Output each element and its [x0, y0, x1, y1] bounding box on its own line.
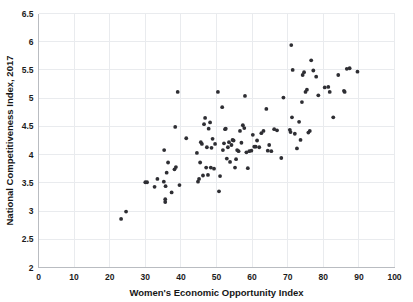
- data-point: [234, 157, 238, 161]
- data-point: [282, 96, 286, 100]
- data-point: [295, 147, 299, 151]
- data-point: [164, 184, 168, 188]
- data-point: [184, 136, 188, 140]
- x-tick-label: 50: [212, 272, 222, 282]
- data-point: [216, 90, 220, 94]
- x-tick-label: 70: [283, 272, 293, 282]
- data-point: [170, 191, 174, 195]
- data-point: [201, 174, 205, 178]
- x-tick-label: 40: [176, 272, 186, 282]
- data-point: [165, 171, 169, 175]
- data-point: [254, 145, 258, 149]
- data-point: [269, 149, 273, 153]
- data-point: [328, 90, 332, 94]
- data-point: [331, 115, 335, 119]
- data-point: [226, 145, 230, 149]
- data-point: [198, 161, 202, 165]
- data-point: [267, 143, 271, 147]
- data-point: [326, 85, 330, 89]
- data-point: [356, 70, 360, 74]
- x-axis-title: Women's Economic Opportunity Index: [129, 287, 304, 298]
- y-tick-label: 6: [29, 37, 34, 47]
- data-point: [343, 90, 347, 94]
- y-tick-label: 3: [29, 206, 34, 216]
- y-tick-label: 4.5: [22, 121, 34, 131]
- data-point: [178, 183, 182, 187]
- data-point: [264, 107, 268, 111]
- data-point: [210, 146, 214, 150]
- data-point: [200, 142, 204, 146]
- data-point: [225, 157, 229, 161]
- scatter-chart: 0102030405060708090100 22.533.544.555.56…: [0, 0, 413, 302]
- data-point: [211, 137, 215, 141]
- data-point: [300, 100, 304, 104]
- data-point: [323, 86, 327, 90]
- data-point: [212, 167, 216, 171]
- y-tick-label: 2: [29, 263, 34, 273]
- data-point: [249, 149, 253, 153]
- y-tick-label: 2.5: [22, 234, 34, 244]
- data-point: [213, 142, 217, 146]
- data-point: [290, 115, 294, 119]
- data-point: [228, 160, 232, 164]
- data-point: [145, 180, 149, 184]
- data-point: [348, 66, 352, 70]
- data-point: [255, 139, 259, 143]
- data-point: [336, 73, 340, 77]
- data-point: [316, 93, 320, 97]
- x-tick-label: 10: [69, 272, 79, 282]
- data-point: [305, 88, 309, 92]
- data-point: [162, 148, 166, 152]
- chart-canvas: 0102030405060708090100 22.533.544.555.56…: [0, 0, 413, 302]
- x-tick-label: 0: [36, 272, 41, 282]
- data-point: [124, 210, 128, 214]
- data-point: [156, 177, 160, 181]
- data-point: [218, 174, 222, 178]
- data-point: [224, 127, 228, 131]
- x-tick-label: 20: [105, 272, 115, 282]
- x-tick-label: 30: [141, 272, 151, 282]
- data-point: [275, 128, 279, 132]
- data-point: [237, 149, 241, 153]
- y-tick-label: 5: [29, 93, 34, 103]
- data-point: [299, 138, 303, 142]
- data-point: [195, 151, 199, 155]
- data-point: [166, 161, 170, 165]
- data-point: [257, 145, 261, 149]
- data-point: [291, 68, 295, 72]
- data-point: [232, 139, 236, 143]
- data-point: [176, 90, 180, 94]
- data-point: [222, 141, 226, 145]
- data-point: [163, 200, 167, 204]
- data-point: [289, 43, 293, 47]
- data-point: [297, 120, 301, 124]
- data-point: [233, 166, 237, 170]
- data-point: [230, 143, 234, 147]
- data-point: [240, 141, 244, 145]
- data-point: [243, 94, 247, 98]
- data-point: [309, 58, 313, 62]
- data-point: [202, 122, 206, 126]
- y-axis-title: National Competitiveness Index, 2017: [4, 55, 15, 225]
- data-point: [173, 125, 177, 129]
- data-point: [197, 177, 201, 181]
- data-point: [119, 217, 123, 221]
- data-point: [242, 126, 246, 130]
- data-point: [266, 149, 270, 153]
- x-tick-label: 90: [354, 272, 364, 282]
- x-tick-label: 80: [319, 272, 329, 282]
- y-tick-label: 4: [29, 150, 34, 160]
- data-point: [238, 129, 242, 133]
- data-point: [203, 116, 207, 120]
- data-point: [262, 129, 266, 133]
- data-point: [293, 132, 297, 136]
- y-tick-label: 3.5: [22, 178, 34, 188]
- y-tick-label: 5.5: [22, 65, 34, 75]
- x-tick-label: 60: [247, 272, 257, 282]
- data-point: [314, 75, 318, 79]
- data-point: [153, 185, 157, 189]
- y-tick-label: 6.5: [22, 9, 34, 19]
- data-point: [221, 148, 225, 152]
- data-point: [289, 130, 293, 134]
- data-point: [308, 129, 312, 133]
